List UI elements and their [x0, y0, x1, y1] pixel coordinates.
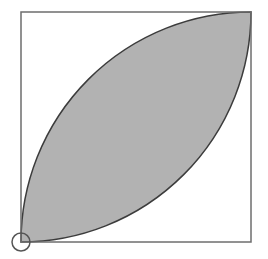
shaded-lens-region	[21, 12, 251, 242]
geometry-diagram	[0, 0, 268, 259]
